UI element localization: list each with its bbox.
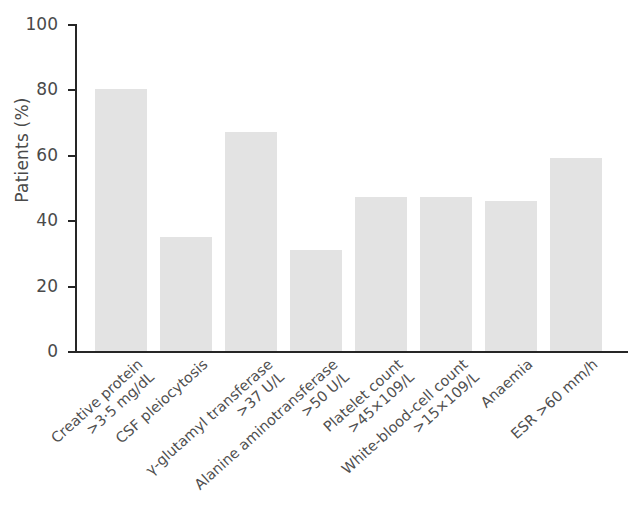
y-axis-line (75, 24, 77, 352)
y-axis-tick-label: 20 (36, 275, 58, 295)
bar-chart-figure: Patients (%) 020406080100 Creative prote… (0, 0, 628, 511)
y-axis-tick: 0 (68, 351, 75, 353)
x-axis-label-line1: Anaemia (477, 356, 535, 411)
bar (420, 197, 472, 351)
bar (160, 237, 212, 351)
y-axis-tick-label: 80 (36, 79, 58, 99)
y-axis-tick-label: 0 (47, 341, 58, 361)
y-axis-tick: 60 (68, 155, 75, 157)
bar (485, 201, 537, 351)
bar (95, 89, 147, 351)
y-axis-tick: 100 (68, 24, 75, 26)
bar (550, 158, 602, 351)
y-axis-tick: 20 (68, 286, 75, 288)
y-axis-tick: 80 (68, 89, 75, 91)
y-axis-tick-label: 100 (26, 14, 58, 34)
y-axis-title: Patients (%) (12, 90, 32, 210)
x-axis-category-label: Creative protein>3·5 mg/dL (48, 356, 157, 459)
bar (225, 132, 277, 351)
bar (290, 250, 342, 351)
x-axis-category-label: Anaemia (477, 356, 536, 411)
x-axis-line (75, 351, 628, 353)
y-axis-tick: 40 (68, 220, 75, 222)
bar (355, 197, 407, 351)
y-axis-tick-label: 40 (36, 210, 58, 230)
plot-area: 020406080100 (75, 24, 628, 352)
y-axis-tick-label: 60 (36, 144, 58, 164)
